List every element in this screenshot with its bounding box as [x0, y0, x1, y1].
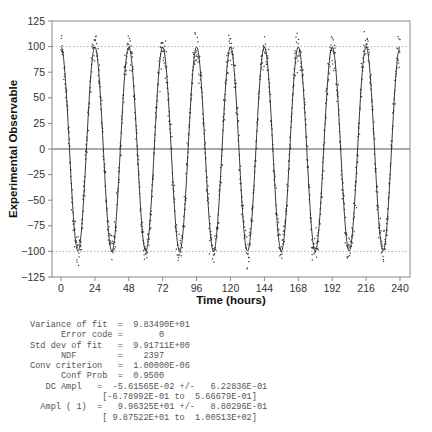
x-tick-label: 144: [256, 282, 274, 294]
x-tick-label: 168: [290, 282, 308, 294]
x-axis-ticks: 024487296120144168192216240: [58, 277, 409, 294]
x-tick-label: 24: [89, 282, 101, 294]
data-points: [60, 31, 400, 270]
y-tick-label: −25: [27, 168, 45, 180]
x-tick-label: 120: [222, 282, 240, 294]
y-axis-ticks: −125−100−75−50−250255075100125: [21, 15, 52, 283]
y-tick-label: −50: [27, 194, 45, 206]
x-axis-title: Time (hours): [196, 294, 266, 306]
y-tick-label: 25: [33, 117, 45, 129]
x-tick-label: 192: [323, 282, 341, 294]
y-tick-label: −100: [21, 245, 45, 257]
x-tick-label: 48: [123, 282, 135, 294]
y-tick-label: −125: [21, 271, 45, 283]
x-tick-label: 216: [357, 282, 375, 294]
x-tick-label: 96: [191, 282, 203, 294]
y-axis-title: Experimental Observable: [7, 80, 19, 218]
x-tick-label: 72: [157, 282, 169, 294]
x-tick-label: 240: [391, 282, 409, 294]
fit-statistics: Variance of fit = 9.83490E+01 Error code…: [30, 320, 267, 423]
reference-lines: [52, 47, 410, 252]
chart: −125−100−75−50−250255075100125 024487296…: [0, 0, 432, 310]
y-tick-label: 100: [27, 40, 45, 52]
y-tick-label: −75: [27, 219, 45, 231]
y-tick-label: 125: [27, 15, 45, 27]
y-tick-label: 0: [39, 143, 45, 155]
y-tick-label: 50: [33, 91, 45, 103]
x-tick-label: 0: [58, 282, 64, 294]
y-tick-label: 75: [33, 66, 45, 78]
